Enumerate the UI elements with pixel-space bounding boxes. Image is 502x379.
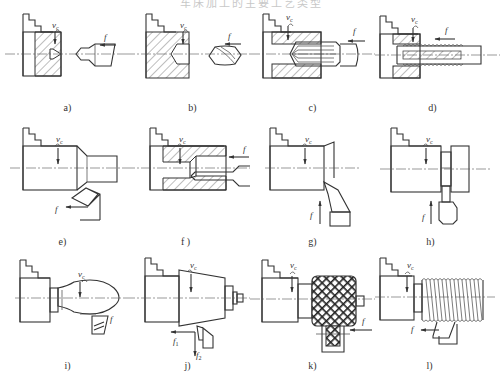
caption-j: j) (125, 360, 250, 371)
svg-text:vc: vc (290, 260, 297, 271)
panel-k-knurling: vc f k) (250, 252, 375, 378)
center-drill-diagram: vc f (0, 8, 125, 134)
facing-tool (324, 182, 350, 212)
svg-text:f: f (362, 316, 366, 326)
caption-e: e) (0, 236, 125, 247)
turning-tool (72, 188, 100, 220)
svg-text:vc: vc (305, 134, 312, 145)
caption-h: h) (368, 236, 493, 247)
svg-text:vc: vc (78, 269, 85, 280)
knurling-wheel (326, 326, 340, 346)
caption-l: l) (367, 360, 492, 371)
threaded-workpiece (422, 280, 483, 320)
center-drill-tool (76, 44, 115, 66)
chuck-jaw-steps (23, 14, 53, 32)
svg-text:vc: vc (180, 20, 187, 31)
svg-text:vc: vc (411, 14, 418, 25)
svg-text:f: f (422, 212, 426, 222)
taper-tool (197, 326, 213, 348)
svg-text:f: f (228, 31, 232, 41)
caption-b: b) (130, 102, 255, 113)
svg-text:f: f (243, 144, 247, 154)
panel-l-thread-cutting: vc f l) (375, 252, 500, 378)
caption-c: c) (250, 102, 375, 113)
svg-text:vc: vc (56, 134, 63, 145)
feed-label: f (104, 32, 108, 42)
panel-e-external-turning: vc f e) (0, 128, 125, 254)
drilling-diagram: vc f (125, 8, 250, 134)
form-tool (92, 316, 108, 334)
panel-f-boring: vc f f ) (125, 128, 250, 254)
caption-i: i) (5, 360, 130, 371)
panel-g-facing: vc f g) (250, 128, 375, 254)
tapping-diagram: vc f (375, 8, 500, 134)
svg-text:f: f (55, 204, 59, 214)
knurled-surface (312, 276, 356, 326)
svg-text:f1: f1 (173, 336, 179, 347)
panel-a-center-drilling: vc f a) (0, 8, 125, 134)
panel-i-form-turning: vc f i) (0, 252, 125, 378)
svg-text:vc: vc (179, 134, 186, 145)
svg-text:vc: vc (286, 12, 293, 23)
svg-text:f: f (353, 26, 357, 36)
parting-tool (442, 186, 450, 202)
caption-k: k) (250, 360, 375, 371)
svg-text:f: f (310, 210, 314, 220)
panel-c-reaming: vc f c) (250, 8, 375, 134)
svg-text:vc: vc (426, 134, 433, 145)
svg-text:f: f (411, 324, 415, 334)
panel-j-taper-turning: vc f1 f2 j) (125, 252, 250, 378)
svg-text:f: f (110, 314, 114, 324)
svg-text:vc: vc (190, 260, 197, 271)
caption-f: f ) (123, 236, 248, 247)
svg-text:f: f (445, 25, 449, 35)
caption-d: d) (370, 102, 495, 113)
panel-h-parting-off: vc f h) (375, 128, 500, 254)
cutting-speed-label: vc (52, 20, 59, 31)
caption-a: a) (5, 102, 130, 113)
caption-g: g) (250, 236, 375, 247)
panel-d-tapping: vc f d) (375, 8, 500, 134)
svg-text:vc: vc (407, 260, 414, 271)
form-workpiece (58, 280, 119, 314)
panel-b-drilling: vc f b) (125, 8, 250, 134)
reaming-diagram: vc f (250, 8, 375, 134)
